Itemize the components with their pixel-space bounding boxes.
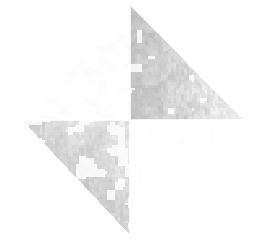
figure-root: Quadrant Noise Diamond Top Left Top Righ… <box>0 0 262 240</box>
quadrant-noise-diamond <box>0 0 262 240</box>
